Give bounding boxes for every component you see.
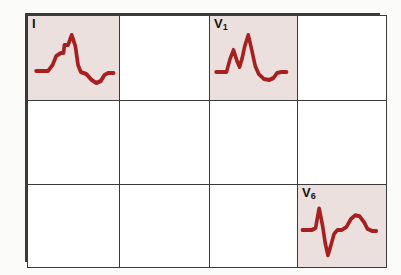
- lead-grid-row: [28, 101, 387, 185]
- lead-i-waveform-holder: [28, 16, 119, 100]
- lead-cell-empty-r2c0: [28, 185, 120, 268]
- lead-i-waveform: [28, 16, 119, 100]
- lead-cell-empty-r1c0: [28, 101, 120, 185]
- lead-v1-waveform-path: [216, 35, 286, 80]
- lead-grid-row: V6: [28, 185, 387, 268]
- lead-v6-waveform-path: [302, 208, 376, 255]
- lead-label-i: I: [32, 17, 36, 31]
- lead-cell-empty-r0c3: [298, 16, 387, 101]
- lead-label-v6: V6: [302, 186, 316, 201]
- lead-label-base: I: [32, 16, 36, 31]
- lead-cell-v6: V6: [298, 185, 387, 268]
- lead-cell-empty-r1c3: [298, 101, 387, 185]
- lead-label-subscript: 6: [311, 191, 316, 201]
- lead-label-subscript: 1: [223, 22, 228, 32]
- lead-label-v1: V1: [214, 17, 228, 32]
- lead-grid-body: IV1V6: [28, 16, 387, 268]
- lead-i-waveform-path: [36, 35, 113, 83]
- lead-cell-empty-r1c1: [120, 101, 210, 185]
- ecg-lead-grid: IV1V6: [25, 13, 380, 262]
- lead-label-base: V: [214, 16, 223, 31]
- lead-cell-empty-r0c1: [120, 16, 210, 101]
- lead-cell-empty-r1c2: [210, 101, 298, 185]
- lead-cell-empty-r2c2: [210, 185, 298, 268]
- lead-cell-empty-r2c1: [120, 185, 210, 268]
- lead-label-base: V: [302, 185, 311, 200]
- lead-cell-v1: V1: [210, 16, 298, 101]
- lead-grid-row: IV1: [28, 16, 387, 101]
- lead-cell-i: I: [28, 16, 120, 101]
- lead-grid-table: IV1V6: [27, 15, 387, 268]
